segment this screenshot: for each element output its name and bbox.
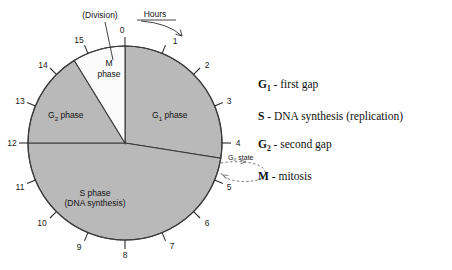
sector-label-m-line1: M: [105, 58, 112, 68]
hour-label-14: 14: [38, 60, 48, 70]
hour-label-15: 15: [74, 35, 84, 45]
hour-label-13: 13: [15, 96, 25, 106]
hours-direction-arrow: [141, 21, 182, 36]
legend-key-g2: G2: [258, 138, 271, 150]
sector-label-g1-letter: G: [152, 110, 159, 120]
sector-label-m-line2: phase: [97, 69, 120, 79]
hours-annotation-label: Hours: [144, 9, 167, 19]
hour-label-7: 7: [170, 241, 175, 251]
legend-key-g1-letter: G: [258, 78, 267, 90]
sector-label-s-line2: (DNA synthesis): [65, 198, 126, 208]
legend-text-g1: - first gap: [271, 78, 319, 90]
hour-label-2: 2: [205, 60, 210, 70]
legend-item-s: S - DNA synthesis (replication): [258, 110, 448, 123]
division-annotation-label: (Division): [82, 10, 118, 20]
g0-letter: G₀ state: [228, 154, 254, 161]
legend: G1 - first gap S - DNA synthesis (replic…: [258, 78, 448, 198]
legend-text-s: - DNA synthesis (replication): [264, 110, 403, 122]
hour-label-5: 5: [227, 182, 232, 192]
hour-label-3: 3: [227, 96, 232, 106]
pie-sector-s: [28, 143, 221, 240]
legend-item-g1: G1 - first gap: [258, 78, 448, 94]
sector-label-s-line1: S phase: [79, 188, 110, 198]
sector-label-g2-suffix: phase: [58, 110, 84, 120]
sector-label-g2-letter: G: [48, 110, 55, 120]
hour-label-4: 4: [236, 138, 241, 148]
legend-item-g2: G2 - second gap: [258, 138, 448, 154]
figure-canvas: 0 1 2 3 4 5 6 7 8 9 10 11 12 13 14 15 G1…: [0, 0, 452, 270]
legend-key-m: M: [258, 170, 269, 182]
legend-text-g2: - second gap: [271, 138, 332, 150]
legend-text-m: - mitosis: [269, 170, 312, 182]
legend-key-m-letter: M: [258, 170, 269, 182]
hour-label-1: 1: [173, 36, 178, 46]
hour-label-0: 0: [120, 25, 125, 35]
sector-label-g1-suffix: phase: [162, 110, 188, 120]
legend-item-m: M - mitosis: [258, 170, 448, 183]
hour-label-11: 11: [16, 182, 25, 192]
hour-label-12: 12: [7, 138, 17, 148]
hour-label-6: 6: [205, 218, 210, 228]
legend-key-g2-letter: G: [258, 138, 267, 150]
g0-state-annotation-label: G₀ state: [228, 154, 254, 161]
sector-label-g2: G2 phase: [48, 110, 84, 122]
hour-label-9: 9: [77, 242, 82, 252]
hour-label-10: 10: [37, 218, 47, 228]
legend-key-g1: G1: [258, 78, 271, 90]
hour-label-8: 8: [123, 250, 128, 260]
sector-label-g1: G1 phase: [152, 110, 188, 122]
